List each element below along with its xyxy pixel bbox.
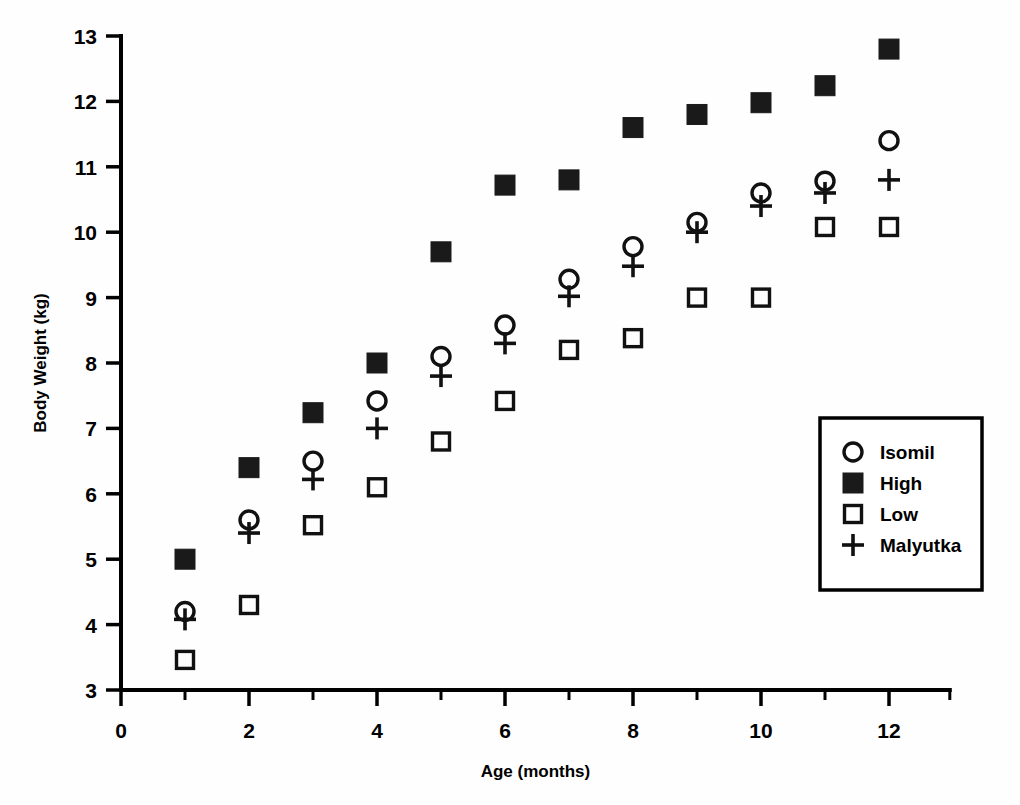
series-high: [175, 39, 899, 569]
y-axis-tick-label: 10: [74, 221, 97, 244]
x-axis-tick-label: 10: [749, 719, 772, 742]
series-low: [177, 218, 898, 668]
data-points: [174, 39, 900, 668]
data-point: [689, 289, 706, 306]
data-point: [624, 238, 642, 256]
data-point: [430, 365, 452, 387]
data-point: [175, 549, 195, 569]
x-axis-tick-label: 0: [115, 719, 127, 742]
data-point: [878, 169, 900, 191]
data-point: [302, 468, 324, 490]
data-point: [304, 452, 322, 470]
plot-axes: [121, 36, 950, 690]
x-axis-tick-label: 6: [499, 719, 511, 742]
data-point: [622, 255, 644, 277]
data-point: [497, 392, 514, 409]
y-axis-tick-label: 5: [85, 548, 97, 571]
chart-legend[interactable]: IsomilHighLowMalyutka: [820, 418, 982, 590]
data-point: [879, 39, 899, 59]
legend-item-high[interactable]: High: [843, 473, 922, 494]
data-point: [815, 76, 835, 96]
legend-item-label: Isomil: [880, 442, 935, 463]
axis-titles: Age (months)Body Weight (kg): [31, 293, 590, 781]
data-point: [495, 175, 515, 195]
y-axis-tick-label: 9: [85, 287, 97, 310]
y-axis-title: Body Weight (kg): [31, 293, 50, 432]
data-point: [305, 517, 322, 534]
y-axis-tick-label: 3: [85, 679, 97, 702]
data-point: [367, 353, 387, 373]
series-malyutka: [174, 169, 900, 630]
y-axis-tick-label: 11: [75, 156, 98, 179]
data-point: [177, 651, 194, 668]
data-point: [494, 332, 516, 354]
x-axis-tick-label: 12: [877, 719, 900, 742]
data-point: [366, 417, 388, 439]
x-axis-tick-label: 2: [243, 719, 255, 742]
data-point: [753, 289, 770, 306]
data-point: [623, 118, 643, 138]
series-isomil: [176, 132, 898, 621]
data-point: [687, 104, 707, 124]
axis-tick-labels: 345678910111213024681012: [74, 25, 901, 742]
data-point: [817, 218, 834, 235]
y-axis-tick-label: 6: [85, 483, 97, 506]
scatter-plot: 345678910111213024681012 Age (months)Bod…: [0, 0, 1020, 805]
y-axis-tick-label: 13: [74, 25, 97, 48]
data-point: [558, 285, 580, 307]
x-axis-title: Age (months): [481, 762, 591, 781]
data-point: [433, 433, 450, 450]
legend-item-label: High: [880, 473, 922, 494]
chart-figure: 345678910111213024681012 Age (months)Bod…: [0, 0, 1020, 805]
data-point: [496, 316, 514, 334]
axis-ticks: [106, 36, 950, 706]
data-point: [431, 242, 451, 262]
data-point: [880, 132, 898, 150]
data-point: [368, 392, 386, 410]
data-point: [241, 596, 258, 613]
data-point: [559, 170, 579, 190]
x-axis-tick-label: 4: [371, 719, 383, 742]
data-point: [625, 330, 642, 347]
data-point: [432, 347, 450, 365]
data-point: [881, 218, 898, 235]
data-point: [561, 341, 578, 358]
y-axis-tick-label: 7: [85, 417, 97, 440]
data-point: [303, 403, 323, 423]
y-axis-tick-label: 12: [74, 90, 97, 113]
data-point: [239, 458, 259, 478]
legend-item-label: Malyutka: [880, 535, 962, 556]
data-point: [751, 93, 771, 113]
legend-marker-filled-square-icon: [843, 473, 863, 493]
x-axis-tick-label: 8: [627, 719, 639, 742]
y-axis-tick-label: 4: [85, 614, 97, 637]
data-point: [369, 479, 386, 496]
legend-item-label: Low: [880, 504, 918, 525]
y-axis-tick-label: 8: [85, 352, 97, 375]
